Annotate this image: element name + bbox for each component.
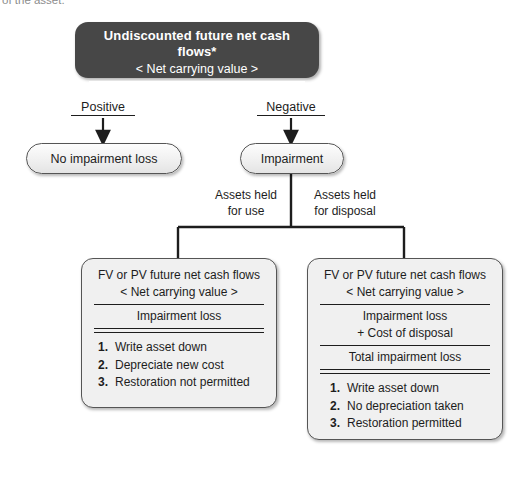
step-text: No depreciation taken [347, 398, 464, 416]
impairment-flowchart: of the asset. Undiscounted future net ca… [0, 0, 524, 477]
step-text: Restoration permitted [347, 415, 462, 433]
list-item: 2. Depreciate new cost [98, 357, 266, 375]
held-for-disposal-divider-3 [320, 369, 490, 374]
pill-no-impairment-loss: No impairment loss [26, 143, 182, 174]
step-number: 3. [330, 415, 347, 433]
label-assets-held-for-disposal: Assets held for disposal [297, 188, 393, 219]
label-assets-held-for-disposal-line2: for disposal [297, 204, 393, 220]
label-assets-held-for-use-line2: for use [206, 204, 286, 220]
step-number: 1. [98, 339, 115, 357]
header-line-1: Undiscounted future net cash flows* [89, 28, 305, 60]
step-number: 2. [330, 398, 347, 416]
list-item: 1. Write asset down [330, 380, 492, 398]
step-text: Restoration not permitted [115, 374, 250, 392]
held-for-use-result: Impairment loss [92, 308, 266, 325]
step-text: Depreciate new cost [115, 357, 224, 375]
held-for-disposal-line-1: FV or PV future net cash flows [318, 267, 492, 284]
held-for-use-divider-2 [94, 328, 264, 333]
held-for-disposal-divider-1 [320, 304, 490, 305]
held-for-use-line-1: FV or PV future net cash flows [92, 267, 266, 284]
list-item: 1. Write asset down [98, 339, 266, 357]
held-for-use-divider-1 [94, 304, 264, 305]
held-for-use-line-2: < Net carrying value > [92, 284, 266, 301]
held-for-disposal-result: Total impairment loss [318, 349, 492, 366]
branch-label-negative: Negative [257, 100, 325, 116]
box-held-for-disposal: FV or PV future net cash flows < Net car… [307, 258, 503, 440]
label-assets-held-for-use: Assets held for use [206, 188, 286, 219]
held-for-disposal-divider-2 [320, 345, 490, 346]
step-number: 1. [330, 380, 347, 398]
held-for-disposal-sub-1: Impairment loss [318, 308, 492, 325]
step-text: Write asset down [115, 339, 207, 357]
box-held-for-use: FV or PV future net cash flows < Net car… [81, 258, 277, 408]
label-assets-held-for-use-line1: Assets held [206, 188, 286, 204]
list-item: 3. Restoration permitted [330, 415, 492, 433]
held-for-disposal-steps: 1. Write asset down 2. No depreciation t… [318, 380, 492, 433]
header-line-2: < Net carrying value > [89, 60, 305, 79]
list-item: 2. No depreciation taken [330, 398, 492, 416]
step-text: Write asset down [347, 380, 439, 398]
label-assets-held-for-disposal-line1: Assets held [297, 188, 393, 204]
step-number: 3. [98, 374, 115, 392]
branch-label-positive: Positive [71, 100, 135, 116]
list-item: 3. Restoration not permitted [98, 374, 266, 392]
undiscounted-cash-flows-test: Undiscounted future net cash flows* < Ne… [75, 22, 319, 78]
held-for-use-steps: 1. Write asset down 2. Depreciate new co… [92, 339, 266, 392]
pill-no-impairment-loss-label: No impairment loss [51, 152, 158, 166]
held-for-disposal-line-2: < Net carrying value > [318, 284, 492, 301]
step-number: 2. [98, 357, 115, 375]
pill-impairment-label: Impairment [261, 152, 324, 166]
pill-impairment: Impairment [240, 143, 344, 174]
header-underline [89, 81, 305, 83]
held-for-disposal-sub-2: + Cost of disposal [318, 325, 492, 342]
